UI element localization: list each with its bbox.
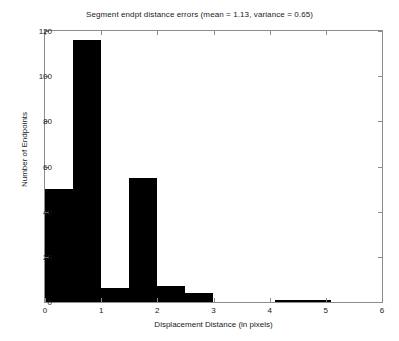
- x-axis-tick: [382, 298, 383, 302]
- x-tick-label: 4: [267, 306, 271, 315]
- y-tick-label: 100: [39, 72, 52, 81]
- histogram-bar: [157, 286, 185, 302]
- y-axis-tick-right: [378, 257, 382, 258]
- x-axis-tick-top: [382, 31, 383, 35]
- bars-layer: [45, 31, 382, 302]
- y-tick-label: 60: [43, 162, 52, 171]
- x-axis-tick: [101, 298, 102, 302]
- x-axis-tick: [214, 298, 215, 302]
- y-tick-label: 80: [43, 117, 52, 126]
- y-axis-tick-right: [378, 167, 382, 168]
- histogram-bar: [129, 178, 157, 302]
- y-axis-tick-right: [378, 76, 382, 77]
- y-axis-tick-right: [378, 121, 382, 122]
- chart-title: Segment endpt distance errors (mean = 1.…: [0, 10, 399, 19]
- x-axis-label: Displacement Distance (in pixels): [44, 320, 383, 329]
- x-tick-label: 0: [43, 306, 47, 315]
- plot-area: [44, 30, 383, 303]
- x-axis-tick-top: [157, 31, 158, 35]
- y-axis-tick-right: [378, 302, 382, 303]
- x-axis-tick-top: [326, 31, 327, 35]
- histogram-bar: [101, 288, 129, 302]
- y-axis-tick-right: [378, 212, 382, 213]
- histogram-bar: [185, 293, 213, 302]
- x-axis-tick: [326, 298, 327, 302]
- x-tick-label: 2: [155, 306, 159, 315]
- histogram-bar: [73, 40, 101, 302]
- x-tick-label: 6: [380, 306, 384, 315]
- y-axis-label: Number of Endpoints: [20, 80, 29, 220]
- x-axis-tick: [157, 298, 158, 302]
- x-axis-tick: [270, 298, 271, 302]
- y-axis-tick-right: [378, 31, 382, 32]
- histogram-bar: [45, 189, 73, 302]
- histogram-bar: [275, 300, 331, 302]
- y-tick-label: 0: [48, 298, 52, 307]
- x-tick-label: 3: [211, 306, 215, 315]
- x-axis-tick-top: [214, 31, 215, 35]
- x-axis-tick-top: [270, 31, 271, 35]
- histogram-figure: Segment endpt distance errors (mean = 1.…: [0, 0, 399, 341]
- x-axis-tick-top: [101, 31, 102, 35]
- x-tick-label: 5: [324, 306, 328, 315]
- y-tick-label: 120: [39, 27, 52, 36]
- y-tick-label: 40: [43, 207, 52, 216]
- x-tick-label: 1: [99, 306, 103, 315]
- y-tick-label: 20: [43, 252, 52, 261]
